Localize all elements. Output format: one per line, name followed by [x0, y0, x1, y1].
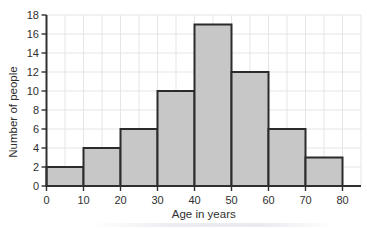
- histogram-bar: [269, 129, 306, 186]
- histogram-bar: [232, 72, 269, 186]
- x-tick-label: 20: [106, 194, 136, 207]
- y-tick-label: 4: [0, 142, 39, 155]
- y-tick-label: 2: [0, 161, 39, 174]
- y-tick-label: 14: [0, 47, 39, 60]
- histogram-bar: [195, 25, 232, 187]
- y-tick-label: 8: [0, 104, 39, 117]
- bottom-edge-strip: [88, 223, 334, 227]
- x-tick-label: 10: [69, 194, 99, 207]
- x-tick-label: 40: [180, 194, 210, 207]
- y-tick-label: 6: [0, 123, 39, 136]
- y-tick-label: 0: [0, 180, 39, 193]
- histogram-bar: [121, 129, 158, 186]
- histogram-bar: [47, 167, 84, 186]
- x-tick-label: 70: [291, 194, 321, 207]
- y-tick-label: 18: [0, 9, 39, 22]
- x-tick-label: 30: [143, 194, 173, 207]
- y-tick-label: 12: [0, 66, 39, 79]
- y-tick-label: 10: [0, 85, 39, 98]
- x-tick-label: 0: [32, 194, 62, 207]
- x-tick-label: 80: [328, 194, 358, 207]
- histogram-bar: [158, 91, 195, 186]
- y-tick-label: 16: [0, 28, 39, 41]
- x-tick-label: 50: [217, 194, 247, 207]
- x-axis-title: Age in years: [47, 208, 362, 220]
- x-tick-label: 60: [254, 194, 284, 207]
- histogram-bar: [306, 158, 343, 187]
- y-axis-title: Number of people: [7, 66, 19, 157]
- histogram-bar: [84, 148, 121, 186]
- histogram-figure: 02468101214161801020304050607080 Age in …: [0, 0, 367, 228]
